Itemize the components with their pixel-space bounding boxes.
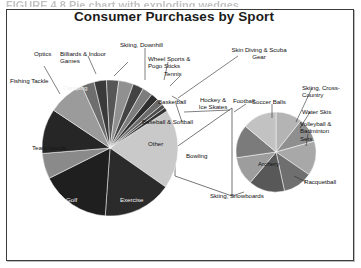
label-baseball-softball: Baseball & Softball — [142, 118, 193, 125]
label-billiards-indoor-games: Billiards & Indoor Games — [60, 50, 126, 65]
label-other: Other — [148, 140, 163, 147]
leader-football — [234, 104, 246, 112]
label-exercise: Exercise — [120, 196, 143, 203]
label-wheel-sports: Wheel Sports & Pogo Sticks — [148, 55, 194, 70]
leader-tennis — [170, 76, 180, 86]
label-bowling: Bowling — [186, 152, 207, 159]
label-skiing-snowboards: Skiing, Snowboards — [210, 192, 264, 199]
label-racquetball: Racquetball — [304, 178, 336, 185]
label-water-skis: Water Skis — [302, 108, 331, 115]
label-team-goods: Team Goods — [32, 144, 67, 151]
label-skiing-cross-country: Skiing, Cross-Country — [302, 84, 340, 99]
label-archery: Archery — [258, 160, 279, 167]
label-soccer-balls: Soccer Balls — [252, 98, 286, 105]
label-skiing-downhill: Skiing, Downhill — [120, 41, 163, 48]
label-optics: Optics — [34, 50, 51, 57]
label-hockey-ice-skates: Hockey & Ice Skates — [196, 96, 230, 111]
label-camping: Camping — [63, 84, 87, 91]
label-fishing-tackle: Fishing Tackle — [10, 77, 48, 84]
label-basketball: Basketball — [158, 98, 186, 105]
label-volleyball-badminton: Volleyball & Badminton Sets — [300, 120, 340, 142]
label-tennis: Tennis — [164, 70, 182, 77]
label-skin-diving-scuba: Skin Diving & Scuba Gear — [228, 46, 290, 61]
label-golf: Golf — [66, 196, 77, 203]
chart-figure: FIGURE 4.8 Pie chart with exploding wedg… — [0, 0, 361, 268]
